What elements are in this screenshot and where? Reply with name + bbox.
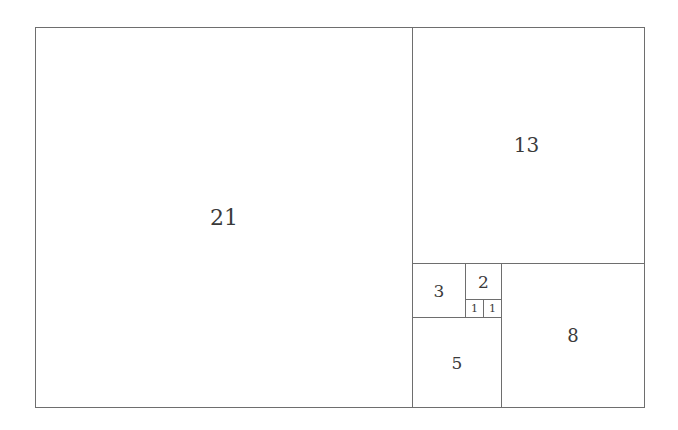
- square-13: 13: [412, 27, 645, 264]
- square-label-21: 21: [210, 205, 238, 230]
- square-1-left: 1: [465, 299, 484, 318]
- square-8: 8: [501, 263, 645, 408]
- square-label-8: 8: [567, 325, 578, 346]
- square-3: 3: [412, 263, 466, 318]
- square-label-2: 2: [478, 272, 489, 292]
- square-1-right: 1: [483, 299, 502, 318]
- square-label-3: 3: [434, 281, 445, 301]
- square-2: 2: [465, 263, 502, 300]
- square-5: 5: [412, 317, 502, 408]
- square-label-13: 13: [514, 133, 539, 157]
- square-21: 21: [35, 27, 413, 408]
- square-label-1b: 1: [489, 302, 496, 315]
- square-label-5: 5: [452, 353, 463, 373]
- square-label-1a: 1: [471, 302, 478, 315]
